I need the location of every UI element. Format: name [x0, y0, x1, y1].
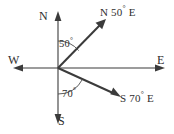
bearing-label-ne-degrees: 50	[111, 6, 122, 18]
compass-label-south: S	[58, 115, 65, 127]
compass-label-north: N	[39, 10, 48, 22]
angle-label-50-value: 50	[59, 38, 70, 49]
bearing-label-se-prefix: S	[120, 92, 126, 104]
diagram-canvas	[0, 0, 174, 134]
bearing-label-se-suffix: E	[147, 92, 154, 104]
degree-symbol-icon: °	[73, 86, 76, 95]
bearing-label-se-degrees: 70	[129, 92, 140, 104]
north-arrowhead-icon	[55, 11, 62, 21]
angle-label-70-value: 70	[62, 88, 73, 99]
angle-label-70: 70°	[62, 89, 76, 100]
degree-symbol-icon: °	[123, 4, 126, 13]
compass-bearing-diagram: N S W E N 50° E S 70° E 50° 70°	[0, 0, 174, 134]
bearing-label-ne: N 50° E	[100, 7, 136, 18]
bearing-label-ne-suffix: E	[129, 6, 136, 18]
angle-label-50: 50°	[59, 39, 73, 50]
compass-label-west: W	[8, 54, 20, 66]
degree-symbol-icon: °	[141, 90, 144, 99]
bearing-label-se: S 70° E	[120, 93, 154, 104]
degree-symbol-icon: °	[70, 36, 73, 45]
bearing-label-ne-prefix: N	[100, 6, 108, 18]
compass-label-east: E	[157, 54, 165, 66]
